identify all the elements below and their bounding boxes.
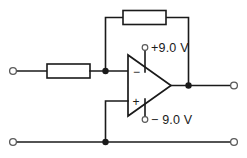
summing-junction-node <box>102 68 108 74</box>
ground-junction-node <box>102 139 108 145</box>
input-branch <box>16 64 128 78</box>
input-terminal[interactable] <box>10 68 17 75</box>
inverting-pin-label: − <box>133 65 140 79</box>
negative-supply-label: − 9.0 V <box>151 113 193 127</box>
ground-terminal-left[interactable] <box>10 139 17 146</box>
feedback-resistor <box>123 11 166 25</box>
positive-supply-terminal[interactable] <box>142 45 148 51</box>
output-junction-node <box>185 82 191 88</box>
feedback-wire-left <box>106 18 124 72</box>
input-resistor <box>47 64 90 78</box>
operational-amplifier: − + <box>106 50 172 142</box>
noninverting-input-wire <box>106 101 129 142</box>
negative-supply-terminal[interactable] <box>142 117 148 123</box>
ground-terminal-right[interactable] <box>231 139 238 146</box>
output-terminal[interactable] <box>231 82 238 89</box>
positive-supply-label: +9.0 V <box>151 41 189 55</box>
circuit-diagram-canvas: − + +9.0 V − 9.0 V <box>0 0 247 158</box>
noninverting-pin-label: + <box>133 95 140 109</box>
